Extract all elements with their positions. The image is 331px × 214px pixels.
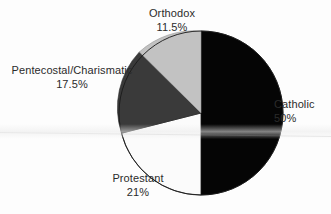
pie-label-pentecostal-charismatic-name: Pentecostal/Charismatic xyxy=(12,64,133,76)
pie-label-protestant: Protestant 21% xyxy=(86,172,190,199)
pie-label-orthodox: Orthodox 11.5% xyxy=(117,7,227,34)
pie-label-protestant-percent: 21% xyxy=(86,186,190,200)
pie-label-orthodox-name: Orthodox xyxy=(149,7,195,19)
pie-label-catholic: Catholic 50% xyxy=(274,98,331,125)
pie-label-pentecostal-charismatic: Pentecostal/Charismatic 17.5% xyxy=(2,64,142,91)
pie-label-catholic-percent: 50% xyxy=(274,112,331,126)
pie-label-protestant-name: Protestant xyxy=(112,172,163,184)
pie-label-orthodox-percent: 11.5% xyxy=(117,21,227,35)
pie-label-catholic-name: Catholic xyxy=(274,98,315,110)
pie-label-pentecostal-charismatic-percent: 17.5% xyxy=(2,78,142,92)
